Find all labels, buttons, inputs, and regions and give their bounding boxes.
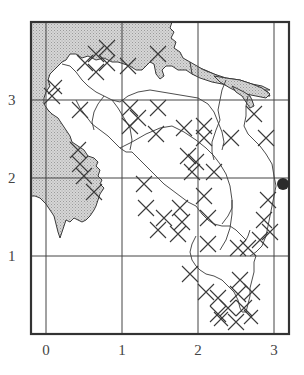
y-tick-1: 1	[8, 249, 16, 264]
y-tick-3: 3	[8, 93, 16, 108]
x-tick-3: 3	[270, 343, 278, 358]
grid-map	[0, 0, 304, 375]
y-tick-2: 2	[8, 171, 16, 186]
location-marker-dot	[277, 178, 289, 190]
land-area	[31, 22, 270, 238]
x-tick-2: 2	[194, 343, 202, 358]
x-tick-1: 1	[118, 343, 126, 358]
x-tick-0: 0	[42, 343, 50, 358]
